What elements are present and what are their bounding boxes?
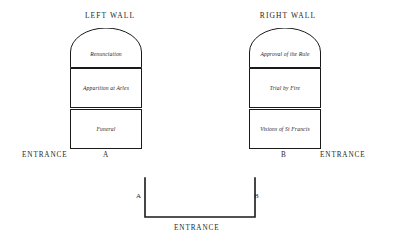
left-wall-panel-label-1: Renunciation (70, 51, 142, 57)
left-wall-panel-label-3: Funeral (96, 126, 115, 132)
arch-outline-icon (70, 28, 142, 68)
left-wall-elevation: Renunciation Apparition at Arles Funeral (70, 28, 142, 149)
right-wall-panel-label-3: Visions of St Francis (260, 126, 310, 132)
left-wall-panel-label-2: Apparition at Arles (83, 85, 129, 91)
floor-plan-marker-b: B (254, 192, 259, 200)
left-wall-panel-renunciation: Renunciation (70, 28, 142, 68)
right-wall-panel-label-1: Approval of the Rule (249, 51, 321, 57)
left-wall-panel-apparition: Apparition at Arles (70, 68, 142, 108)
wall-marker-b: B (281, 151, 287, 159)
right-wall-panel-approval: Approval of the Rule (249, 28, 321, 68)
entrance-label-left: ENTRANCE (22, 151, 68, 159)
right-wall-panel-visions: Visions of St Francis (249, 109, 321, 149)
entrance-label-right: ENTRANCE (320, 151, 366, 159)
right-wall-title: RIGHT WALL (240, 11, 336, 20)
floor-plan-marker-a: A (136, 192, 142, 200)
floor-plan-entrance-label: ENTRANCE (174, 224, 220, 232)
left-wall-title: LEFT WALL (62, 11, 158, 20)
floor-plan (130, 176, 270, 224)
fresco-wall-diagram: LEFT WALL Renunciation Apparition at Arl… (0, 0, 402, 244)
right-wall-panel-label-2: Trial by Fire (270, 85, 300, 91)
left-wall-panel-funeral: Funeral (70, 109, 142, 149)
right-wall-elevation: Approval of the Rule Trial by Fire Visio… (249, 28, 321, 149)
arch-outline-icon (249, 28, 321, 68)
floor-plan-outline-icon (130, 176, 270, 224)
wall-marker-a: A (103, 151, 109, 159)
right-wall-panel-trial: Trial by Fire (249, 68, 321, 108)
